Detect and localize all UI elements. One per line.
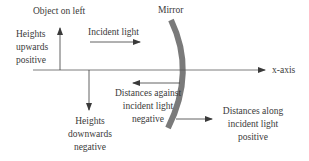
heights-down-label: Heights downwards negative — [62, 115, 118, 154]
along-line-2: incident light — [213, 118, 293, 131]
heights-down-line-3: negative — [62, 141, 118, 154]
heights-up-line-2: upwards — [16, 41, 48, 54]
against-line-2: incident light — [103, 100, 193, 113]
against-line-1: Distances against — [103, 87, 193, 100]
object-label: Object on left — [33, 5, 85, 18]
along-line-1: Distances along — [213, 105, 293, 118]
heights-up-label: Heights upwards positive — [16, 28, 48, 67]
distances-along-label: Distances along incident light positive — [213, 105, 293, 144]
along-line-3: positive — [213, 131, 293, 144]
heights-up-line-1: Heights — [16, 28, 48, 41]
heights-down-line-1: Heights — [62, 115, 118, 128]
mirror-label: Mirror — [158, 4, 183, 17]
incident-light-label: Incident light — [88, 26, 139, 39]
x-axis-label: x-axis — [272, 64, 295, 77]
heights-down-line-2: downwards — [62, 128, 118, 141]
heights-up-line-3: positive — [16, 54, 48, 67]
